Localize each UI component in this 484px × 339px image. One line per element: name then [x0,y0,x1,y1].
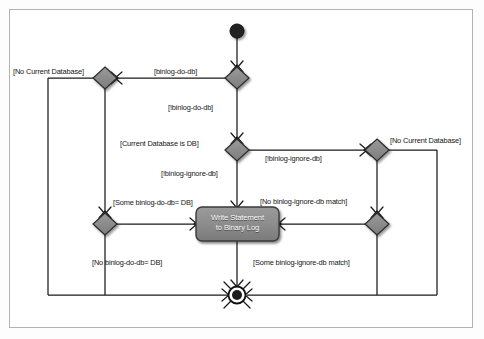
edge-label-not-binlog-ignore-db-down: [!binlog-ignore-db] [161,170,218,177]
edge-label-no-binlog-ignore-db-match: [No binlog-ignore-db match] [260,198,347,205]
activity-label-line2: to Binary Log [196,223,279,233]
edge-label-some-binlog-do-db-eq-db: [Some binlog-do-db= DB] [113,199,193,206]
edge-label-no-current-database-left: [No Current Database] [13,68,84,75]
activity-label: Write Statement to Binary Log [196,213,279,232]
decision-some-binlog-do-db [93,213,117,235]
decision-current-database-is-db [225,139,249,161]
activity-diagram-image: Write Statement to Binary Log [No Curren… [0,0,484,339]
diagram-canvas [0,0,484,339]
edge-label-current-database-is-db: [Current Database is DB] [120,140,199,147]
edge-label-some-binlog-ignore-db-match: [Some binlog-ignore-db match] [253,259,350,266]
edge-label-not-binlog-do-db: [!binlog-do-db] [168,104,213,111]
final-node [229,287,246,304]
decision-binlog-do-db [225,67,249,89]
activity-label-line1: Write Statement [196,213,279,223]
initial-node [230,24,244,38]
decision-no-current-database-right [365,139,389,161]
edge-label-binlog-do-db: [binlog-do-db] [154,68,197,75]
edge-label-no-current-database-right: [No Current Database] [390,137,461,144]
edge-label-not-binlog-ignore-db-right: [!binlog-ignore-db] [265,155,322,162]
edge-label-no-binlog-do-db-eq-db: [No binlog-do-db= DB] [92,259,162,266]
decision-no-binlog-ignore-db-match [365,213,389,235]
decision-no-current-database-left [93,67,117,89]
arrowheads [99,61,383,308]
